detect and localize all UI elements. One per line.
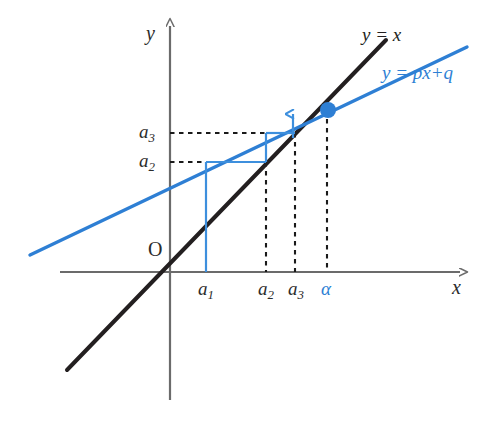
dashed-guides-group xyxy=(170,110,327,272)
x-axis-label: x xyxy=(452,276,461,299)
origin-label: O xyxy=(148,238,162,261)
cobweb-staircase-group xyxy=(206,114,295,272)
x-tick-label-a2: a2 xyxy=(258,278,274,303)
y-tick-label-a3: a3 xyxy=(139,121,155,146)
x-tick-label-alpha: α xyxy=(321,278,331,300)
map-line-label: y = px+q xyxy=(382,62,453,84)
x-tick-label-a3: a3 xyxy=(288,278,304,303)
y-axis-label: y xyxy=(146,22,155,45)
y-tick-label-a2: a2 xyxy=(139,150,155,175)
fixed-point-marker xyxy=(320,102,336,118)
identity-line-y-equals-x xyxy=(67,40,386,370)
figure-canvas: y = x y = px+q x y O a1a2a3αa3a2 xyxy=(0,0,498,424)
identity-line-label: y = x xyxy=(362,24,401,46)
x-tick-label-a1: a1 xyxy=(198,278,214,303)
